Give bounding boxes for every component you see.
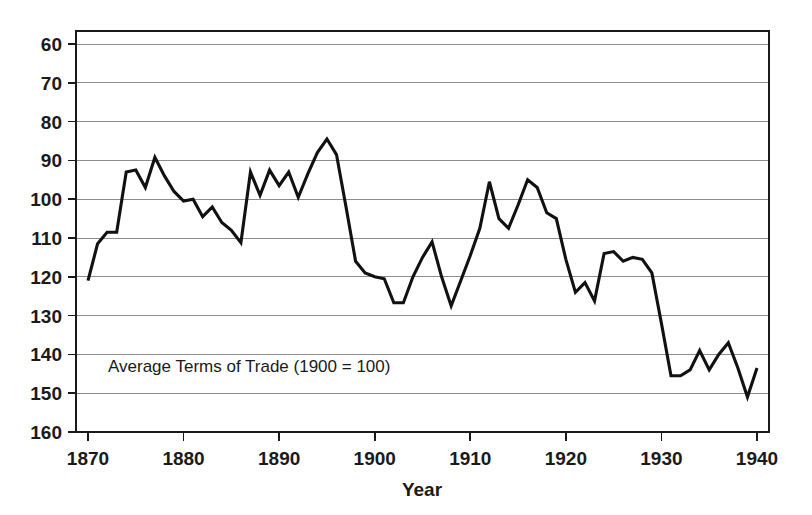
y-tick-marks — [68, 44, 76, 432]
x-tick-label-1900: 1900 — [354, 448, 396, 469]
y-tick-label-120: 100 — [30, 189, 62, 210]
y-tick-label-90: 130 — [30, 306, 62, 327]
y-tick-label-100: 120 — [30, 267, 62, 288]
x-tick-label-1930: 1930 — [640, 448, 682, 469]
chart-annotation: Average Terms of Trade (1900 = 100) — [108, 357, 390, 376]
x-tick-marks — [88, 432, 757, 441]
y-tick-label-110: 110 — [31, 228, 62, 249]
x-tick-label-1940: 1940 — [736, 448, 778, 469]
y-tick-label-140: 80 — [41, 112, 62, 133]
y-tick-label-150: 70 — [41, 73, 62, 94]
x-tick-label-1890: 1890 — [258, 448, 300, 469]
x-axis-tick-labels: 18701880189019001910192019301940 — [67, 448, 778, 469]
y-tick-label-70: 150 — [30, 383, 62, 404]
y-tick-label-80: 140 — [30, 344, 62, 365]
y-tick-label-130: 90 — [41, 150, 62, 171]
x-axis-title: Year — [402, 479, 443, 500]
x-tick-label-1880: 1880 — [162, 448, 204, 469]
line-chart-canvas: 16015014013012011010090807060 1870188018… — [0, 0, 812, 515]
x-tick-label-1920: 1920 — [545, 448, 587, 469]
x-tick-label-1870: 1870 — [67, 448, 109, 469]
y-axis-tick-labels: 16015014013012011010090807060 — [30, 34, 62, 443]
y-tick-label-60: 160 — [30, 422, 62, 443]
chart-figure: 16015014013012011010090807060 1870188018… — [0, 0, 812, 515]
y-tick-label-160: 60 — [41, 34, 62, 55]
x-tick-label-1910: 1910 — [449, 448, 491, 469]
